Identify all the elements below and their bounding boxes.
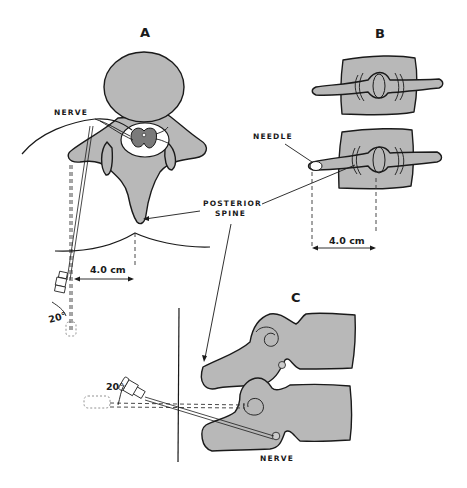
distance-label-b: 4.0 cm xyxy=(329,235,365,246)
arrowhead-left-a xyxy=(74,277,80,282)
ghost-hub-a xyxy=(66,322,76,336)
posterior-spine-label-line1: POSTERIOR xyxy=(203,199,262,208)
needle-hub-a xyxy=(54,271,67,293)
panel-b-letter: B xyxy=(375,26,385,41)
skin-line-a xyxy=(55,233,210,251)
panel-a-letter: A xyxy=(140,25,150,40)
arrowhead-right-b xyxy=(370,246,376,251)
angle-label-c: 20° xyxy=(106,381,124,392)
arrowhead-left-b xyxy=(312,246,318,251)
needle-leader-b xyxy=(285,144,312,162)
ghost-hub-c xyxy=(84,396,110,408)
panel-c-letter: C xyxy=(291,290,301,305)
arrowhead-right-a xyxy=(128,277,134,282)
panel-a: A NERVE 20° xyxy=(22,25,210,336)
leader-arrowhead-c xyxy=(202,355,207,362)
panel-c: C NERVE 20° xyxy=(84,290,355,463)
angle-label-a: 20° xyxy=(47,310,67,325)
leader-to-panel-a xyxy=(145,211,200,219)
posterior-spine-label-line2: SPINE xyxy=(215,209,246,218)
spinal-nerve-block-diagram: A NERVE 20° xyxy=(0,0,467,488)
horizontal-reference-c-1 xyxy=(110,403,245,405)
vertebra-c-upper xyxy=(201,313,355,389)
panel-b: B NEEDLE 4.0 cm xyxy=(253,26,443,251)
nerve-label-c: NERVE xyxy=(260,454,294,463)
nerve-label-a: NERVE xyxy=(54,108,88,117)
needle-entry-b xyxy=(310,162,322,171)
skin-line-c xyxy=(178,308,179,462)
spinous-process-b-upper xyxy=(312,73,443,99)
leader-to-panel-c xyxy=(205,224,231,358)
vertebral-body-a xyxy=(104,52,184,122)
nerve-foramen-c-upper xyxy=(279,362,286,369)
articular-process-left xyxy=(102,142,113,175)
distance-label-a: 4.0 cm xyxy=(90,264,126,275)
central-canal xyxy=(142,133,146,137)
needle-label-b: NEEDLE xyxy=(253,132,293,141)
